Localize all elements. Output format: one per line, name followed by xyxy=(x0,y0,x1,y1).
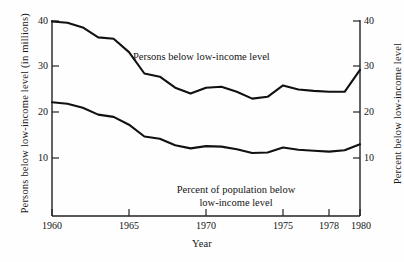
x-axis-ticks xyxy=(52,209,360,216)
xtick-1960: 1960 xyxy=(29,220,75,231)
ytick-right-10: 10 xyxy=(364,152,394,163)
ytick-right-30: 30 xyxy=(364,60,394,71)
annotation-percent-line2: low-income level xyxy=(199,197,272,208)
chart-figure: 40 30 20 10 40 30 20 10 1960 1965 1970 1… xyxy=(0,0,404,262)
annotation-percent-of-population: Percent of population below low-income l… xyxy=(152,183,320,209)
ytick-right-40: 40 xyxy=(364,15,394,26)
y-axis-ticks-left xyxy=(52,21,59,158)
annotation-percent-line1: Percent of population below xyxy=(177,184,296,195)
series-line-percent xyxy=(52,102,360,153)
xtick-1965: 1965 xyxy=(106,220,152,231)
xtick-1970: 1970 xyxy=(183,220,229,231)
x-axis-label: Year xyxy=(0,238,404,249)
y-axis-ticks-right xyxy=(353,21,360,158)
xtick-1975: 1975 xyxy=(260,220,306,231)
annotation-persons-below-low-income: Persons below low-income level xyxy=(133,50,270,63)
xtick-1980: 1980 xyxy=(338,220,384,231)
y-axis-label-right: Percent below low-income level xyxy=(392,14,403,214)
y-axis-label-left: Persons below low-income level (in milli… xyxy=(19,14,30,214)
ytick-right-20: 20 xyxy=(364,106,394,117)
